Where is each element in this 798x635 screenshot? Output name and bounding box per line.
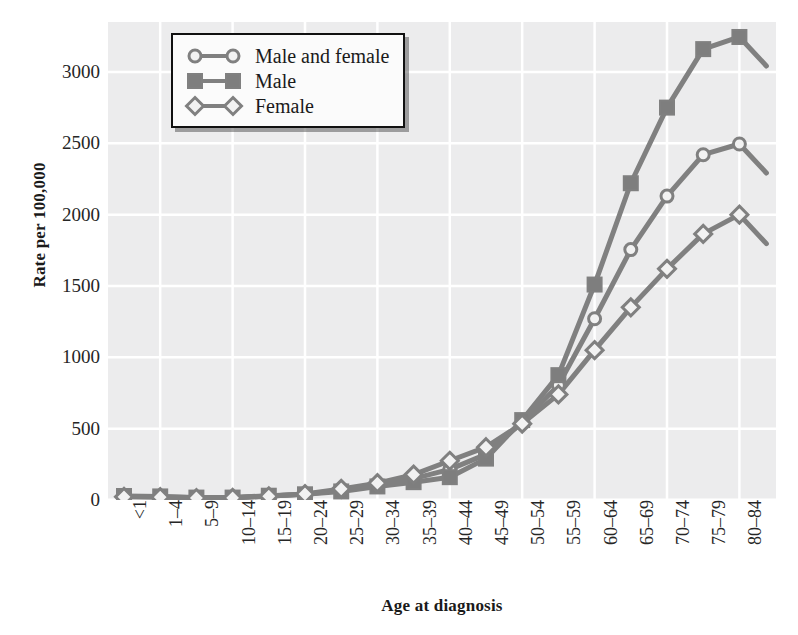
- legend-label: Female: [255, 96, 314, 116]
- y-tick-label: 1000: [38, 347, 100, 366]
- x-tick-label: 80–84: [746, 500, 764, 588]
- x-tick-label: 50–54: [529, 500, 547, 588]
- x-tick-label: 65–69: [638, 500, 656, 588]
- legend-label: Male: [255, 71, 296, 91]
- data-point-marker: [625, 244, 637, 256]
- data-point-marker: [733, 138, 745, 150]
- x-tick-label: 75–79: [710, 500, 728, 588]
- y-tick-label: 0: [38, 490, 100, 509]
- x-tick-label: 40–44: [457, 500, 475, 588]
- data-point-marker: [227, 50, 239, 62]
- data-point-marker: [187, 97, 204, 114]
- data-point-marker: [732, 30, 746, 44]
- data-point-marker: [589, 313, 601, 325]
- x-tick-label: 20–24: [312, 500, 330, 588]
- legend-item: Male: [183, 68, 389, 93]
- x-tick-label: 30–34: [384, 500, 402, 588]
- data-point-marker: [661, 190, 673, 202]
- legend-label: Male and female: [255, 46, 389, 66]
- x-tick-label: 25–29: [348, 500, 366, 588]
- chart-figure: Rate per 100,000 05001000150020002500300…: [0, 0, 798, 635]
- y-tick-label: 3000: [38, 62, 100, 81]
- data-point-marker: [189, 50, 201, 62]
- y-tick-label: 2000: [38, 205, 100, 224]
- data-point-marker: [696, 42, 710, 56]
- y-tick-label: 2500: [38, 133, 100, 152]
- x-tick-label: <1: [131, 500, 149, 588]
- x-tick-label: 35–39: [421, 500, 439, 588]
- legend-marker-square-filled-icon: [183, 70, 245, 92]
- data-point-marker: [225, 97, 242, 114]
- legend-item: Female: [183, 93, 389, 118]
- y-tick-label: 1500: [38, 276, 100, 295]
- x-axis-title: Age at diagnosis: [108, 596, 776, 616]
- data-point-marker: [443, 470, 457, 484]
- x-tick-label: 60–64: [602, 500, 620, 588]
- x-tick-label: 10–14: [240, 500, 258, 588]
- data-point-marker: [188, 74, 202, 88]
- data-point-marker: [624, 176, 638, 190]
- data-point-marker: [697, 149, 709, 161]
- chart-legend: Male and femaleMaleFemale: [171, 33, 405, 128]
- legend-item: Male and female: [183, 43, 389, 68]
- legend-marker-circle-open-icon: [183, 45, 245, 67]
- x-tick-label: 45–49: [493, 500, 511, 588]
- x-tick-label: 1–4: [167, 500, 185, 588]
- data-point-marker: [588, 278, 602, 292]
- x-tick-label: 70–74: [674, 500, 692, 588]
- x-tick-label: 55–59: [565, 500, 583, 588]
- x-axis-tick-labels: <11–45–910–1415–1920–2425–2930–3435–3940…: [108, 500, 776, 595]
- data-point-marker: [226, 74, 240, 88]
- legend-marker-diamond-open-icon: [183, 95, 245, 117]
- x-tick-label: 15–19: [276, 500, 294, 588]
- series-line: [124, 144, 739, 498]
- data-point-marker: [551, 368, 565, 382]
- data-point-marker: [660, 101, 674, 115]
- y-axis-tick-labels: 050010001500200025003000: [38, 0, 100, 635]
- x-tick-label: 5–9: [203, 500, 221, 588]
- y-tick-label: 500: [38, 419, 100, 438]
